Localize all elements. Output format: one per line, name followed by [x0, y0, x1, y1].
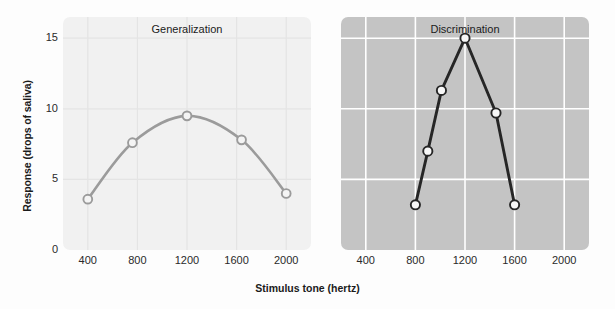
- panel-generalization: Generalization: [63, 17, 311, 250]
- generalization-plot: [63, 17, 311, 250]
- panel-discrimination: Discrimination: [341, 17, 589, 250]
- y-tick-label: 5: [32, 172, 58, 184]
- x-axis-title: Stimulus tone (hertz): [0, 282, 615, 294]
- discrimination-plot: [341, 17, 589, 250]
- x-tick-label: 1200: [165, 254, 209, 266]
- data-point-marker: [411, 200, 420, 209]
- x-tick-label: 400: [66, 254, 110, 266]
- data-point-marker: [423, 147, 432, 156]
- y-tick-label: 10: [32, 102, 58, 114]
- panel-generalization-title: Generalization: [63, 23, 311, 35]
- x-tick-label: 800: [393, 254, 437, 266]
- data-point-marker: [83, 195, 92, 204]
- panel-discrimination-title: Discrimination: [341, 23, 589, 35]
- x-tick-label: 400: [344, 254, 388, 266]
- data-point-marker: [282, 189, 291, 198]
- data-point-marker: [183, 111, 192, 120]
- x-tick-label: 1600: [215, 254, 259, 266]
- y-tick-label: 15: [32, 31, 58, 43]
- data-point-marker: [128, 138, 137, 147]
- x-tick-label: 2000: [542, 254, 586, 266]
- x-tick-label: 1600: [493, 254, 537, 266]
- data-point-marker: [437, 86, 446, 95]
- x-tick-label: 800: [115, 254, 159, 266]
- data-point-marker: [237, 135, 246, 144]
- data-point-marker: [510, 200, 519, 209]
- x-tick-label: 2000: [264, 254, 308, 266]
- x-tick-label: 1200: [443, 254, 487, 266]
- y-tick-label: 0: [32, 243, 58, 255]
- y-axis-tick-labels: 051015: [28, 0, 58, 309]
- figure-container: Response (drops of saliva) 051015 Genera…: [0, 0, 615, 309]
- data-point-marker: [491, 108, 500, 117]
